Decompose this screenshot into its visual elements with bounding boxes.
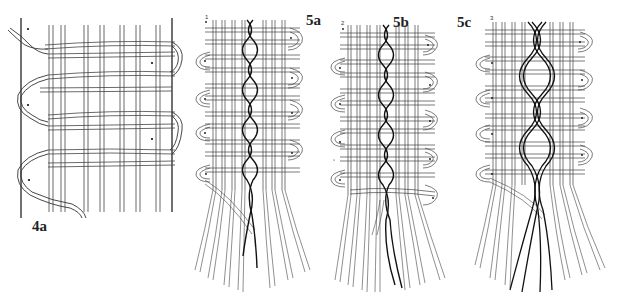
figure-canvas: 4a 5a 5b 5c 1 2 3 xyxy=(0,0,640,302)
panel-5c xyxy=(475,22,605,292)
panel-4a xyxy=(8,18,182,218)
label-4a: 4a xyxy=(32,218,47,235)
sublabel-3: 3 xyxy=(490,15,493,21)
panel-5b xyxy=(331,25,445,292)
weave-illustration xyxy=(0,0,640,302)
label-5c: 5c xyxy=(457,14,471,31)
panel-5a xyxy=(195,20,310,292)
label-5b: 5b xyxy=(393,14,409,31)
sublabel-1: 1 xyxy=(205,14,208,20)
sublabel-2: 2 xyxy=(341,20,344,26)
label-5a: 5a xyxy=(306,12,321,29)
